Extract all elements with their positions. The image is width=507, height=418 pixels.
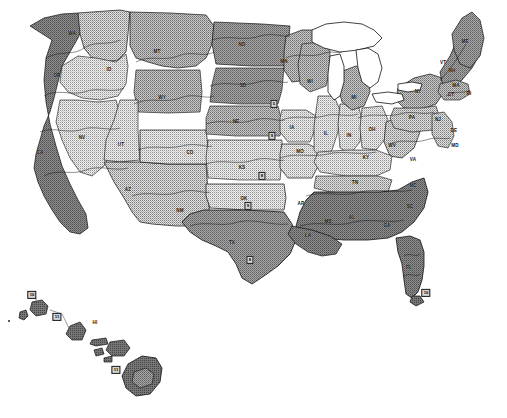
island-marker-dot xyxy=(8,320,10,322)
zone-marker: 8 xyxy=(246,256,253,264)
region-wyoming xyxy=(134,70,202,113)
region-illinois xyxy=(314,96,340,160)
continental-us-landmass xyxy=(30,10,484,306)
island-maui xyxy=(106,340,130,356)
island-molokai xyxy=(90,338,108,346)
region-pacific-northwest xyxy=(78,10,130,62)
zone-marker: 11 xyxy=(111,366,120,374)
island-lanai xyxy=(94,348,104,356)
zone-marker: 10 xyxy=(27,291,36,299)
zone-marker: 11 xyxy=(52,313,61,321)
lake-superior xyxy=(312,22,382,52)
region-texas xyxy=(182,210,296,284)
region-tennessee xyxy=(314,176,392,194)
zone-marker: 10 xyxy=(421,289,430,297)
region-south-dakota xyxy=(210,68,284,104)
region-new-york xyxy=(396,74,444,110)
region-southern-new-england xyxy=(438,80,470,100)
lake-ontario xyxy=(398,82,422,92)
region-nj-de-md xyxy=(432,112,454,148)
region-wisconsin xyxy=(298,42,330,92)
region-kansas xyxy=(206,140,282,180)
zone-marker: 9 xyxy=(268,132,275,140)
region-kentucky-tennessee xyxy=(314,150,392,176)
region-ohio xyxy=(360,106,388,150)
island-kahoolawe xyxy=(104,356,112,362)
region-indiana xyxy=(338,104,362,154)
region-great-plains xyxy=(212,22,290,66)
island-kauai xyxy=(30,300,48,316)
region-florida-keys xyxy=(410,296,424,306)
zone-marker: 5 xyxy=(270,100,277,108)
region-florida xyxy=(396,236,424,298)
zone-marker: 9 xyxy=(244,202,251,210)
zone-marker: 8 xyxy=(258,172,265,180)
us-map-svg xyxy=(0,0,507,418)
island-niihau xyxy=(19,310,28,320)
region-northern-rockies xyxy=(130,12,214,68)
us-zone-map: WAORIDMTWYNVCAUTAZNMCONDSDNEKSOKTXMNIAMO… xyxy=(0,0,507,418)
island-oahu xyxy=(66,322,86,340)
hawaii-inset xyxy=(8,298,162,396)
region-iowa xyxy=(280,110,316,142)
